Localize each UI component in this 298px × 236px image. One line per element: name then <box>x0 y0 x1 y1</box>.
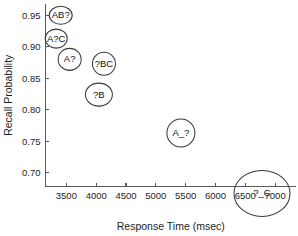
scatter-plot-figure: 0.700.750.800.850.900.953500400045005000… <box>0 0 298 236</box>
x-tick-label: 3500 <box>56 190 77 201</box>
y-tick-label: 0.95 <box>22 10 41 21</box>
data-bubble: AB? <box>49 6 72 24</box>
bubble-label: A_? <box>172 127 189 138</box>
data-bubble: A? <box>58 48 81 70</box>
y-tick-label: 0.80 <box>22 104 41 115</box>
bubble-label: AB? <box>52 9 70 20</box>
x-tick-label: 4500 <box>115 190 136 201</box>
data-bubble: ?B <box>85 83 112 106</box>
bubble-label: ?B <box>93 89 105 100</box>
bubble-label: A?C <box>47 33 66 44</box>
bubble-label: ?_C <box>253 187 271 198</box>
bubble-label: A? <box>64 53 76 64</box>
x-tick-label: 4000 <box>86 190 107 201</box>
x-tick-label: 5500 <box>175 190 196 201</box>
y-tick-label: 0.85 <box>22 73 41 84</box>
data-bubble: A_? <box>167 119 195 147</box>
bubble-label: ?BC <box>95 58 114 69</box>
axis-spines <box>46 4 297 187</box>
data-bubble: ?BC <box>92 52 115 75</box>
y-tick-label: 0.70 <box>22 167 41 178</box>
x-tick-label: 6000 <box>205 190 226 201</box>
plot-canvas: 0.700.750.800.850.900.953500400045005000… <box>0 0 298 236</box>
x-axis-title: Response Time (msec) <box>117 220 225 232</box>
data-bubble: A?C <box>45 29 67 48</box>
x-tick-label: 5000 <box>145 190 166 201</box>
y-axis-title: Recall Probability <box>2 54 14 136</box>
y-tick-label: 0.90 <box>22 41 41 52</box>
y-tick-label: 0.75 <box>22 136 41 147</box>
